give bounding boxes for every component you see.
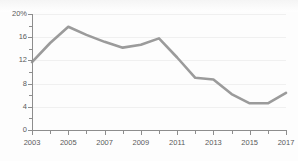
x-tick-minor	[268, 131, 269, 134]
x-axis: 20032005200720092011201320152017	[0, 0, 298, 161]
x-tick-major	[32, 131, 33, 135]
x-tick-major	[68, 131, 69, 135]
x-tick-label: 2011	[169, 138, 185, 147]
x-tick-label: 2017	[278, 138, 295, 147]
x-tick-minor	[50, 131, 51, 134]
x-tick-major	[177, 131, 178, 135]
x-tick-label: 2007	[96, 138, 113, 147]
x-tick-major	[286, 131, 287, 135]
line-chart: 048121620% 20032005200720092011201320152…	[0, 0, 298, 161]
x-tick-major	[250, 131, 251, 135]
x-tick-label: 2015	[241, 138, 258, 147]
x-tick-minor	[123, 131, 124, 134]
x-tick-major	[141, 131, 142, 135]
x-tick-minor	[86, 131, 87, 134]
x-tick-minor	[232, 131, 233, 134]
x-tick-label: 2013	[205, 138, 222, 147]
x-tick-major	[213, 131, 214, 135]
x-tick-major	[105, 131, 106, 135]
x-tick-label: 2009	[133, 138, 150, 147]
x-tick-minor	[159, 131, 160, 134]
x-tick-minor	[195, 131, 196, 134]
x-tick-label: 2003	[24, 138, 41, 147]
x-tick-label: 2005	[60, 138, 77, 147]
